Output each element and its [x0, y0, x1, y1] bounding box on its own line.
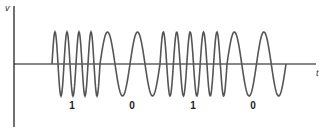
- y-axis-label: v: [5, 3, 10, 13]
- x-axis-label: t: [316, 68, 319, 78]
- bit-label: 0: [129, 100, 135, 111]
- bit-label: 1: [69, 100, 75, 111]
- bit-label: 0: [250, 100, 256, 111]
- fsk-diagram: [0, 0, 333, 131]
- bit-label: 1: [190, 100, 196, 111]
